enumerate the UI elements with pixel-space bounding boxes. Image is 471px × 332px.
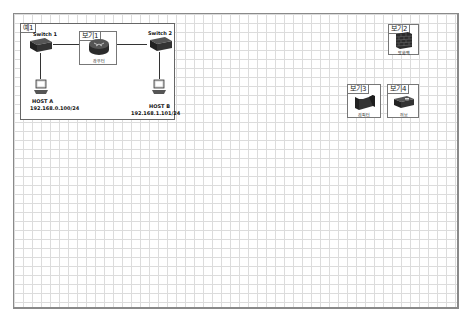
host-a-ip: 192.168.0.100/24: [30, 105, 79, 111]
hub-icon: [392, 95, 416, 109]
computer-icon: [33, 79, 49, 95]
host-a-name: HOST A: [32, 98, 53, 104]
link-router-switch2: [117, 44, 147, 45]
host-b-name: HOST B: [149, 103, 170, 109]
option-label: 방화벽: [398, 50, 410, 56]
host-b-ip: 192.168.1.101/24: [131, 110, 180, 116]
router-option-box[interactable]: 보기1 라우터: [79, 31, 117, 65]
option-label: 허브: [400, 112, 408, 118]
option-box-firewall[interactable]: 보기2 방화벽: [388, 24, 419, 55]
firewall-icon: [394, 31, 414, 49]
router-icon: [88, 38, 110, 56]
switch-icon: [27, 37, 53, 53]
switch-icon: [147, 36, 173, 52]
bridge-icon: [353, 93, 377, 111]
router-label: 라우터: [93, 58, 105, 64]
option-box-hub[interactable]: 보기4 허브: [387, 84, 419, 118]
link-switch2-hostb: [159, 52, 160, 79]
computer-icon: [151, 79, 167, 95]
option-tag: 보기4: [388, 85, 409, 94]
network-diagram-box: 예1 Switch 1 Switch 2 보기1 라우터 HOST A 192.…: [20, 23, 175, 120]
link-switch1-router: [53, 44, 79, 45]
option-label: 리피터: [358, 112, 370, 118]
link-switch1-hosta: [40, 53, 41, 79]
option-box-repeater[interactable]: 보기3 리피터: [347, 84, 381, 118]
